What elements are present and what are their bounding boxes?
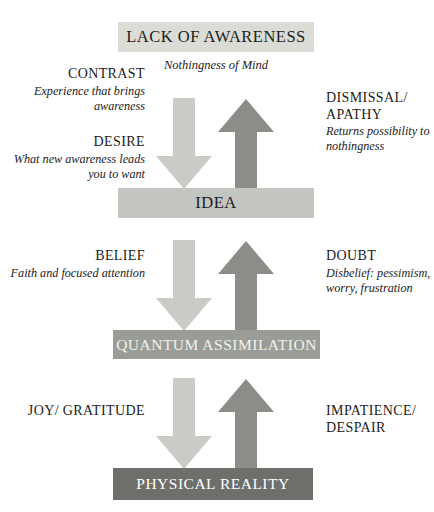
right-label-dismissal-apathy: DISMISSAL/ APATHY Returns possibility to… — [326, 90, 434, 155]
right-label-doubt-desc: Disbelief: pessimism, worry, frustration — [326, 266, 434, 297]
stage-label-idea: IDEA — [118, 193, 314, 213]
arrow-up-icon — [217, 98, 275, 190]
left-label-contrast-desc: Experience that brings awareness — [5, 84, 145, 115]
right-label-impatience-despair-title: IMPATIENCE/ DESPAIR — [326, 403, 434, 436]
left-label-belief-desc: Faith and focused attention — [5, 266, 145, 281]
arrow-down-icon — [155, 378, 213, 470]
stage-box-lack-of-awareness: LACK OF AWARENESS — [118, 22, 314, 52]
manifestation-flow-diagram: LACK OF AWARENESS Nothingness of Mind CO… — [0, 0, 434, 512]
left-label-desire-desc: What new awareness leads you to want — [5, 152, 145, 183]
arrow-pair-idea-to-quantum — [155, 240, 285, 332]
arrow-pair-quantum-to-physical — [155, 378, 285, 470]
right-label-impatience-despair: IMPATIENCE/ DESPAIR — [326, 403, 434, 436]
stage-label-quantum-assimilation: QUANTUM ASSIMILATION — [113, 336, 320, 354]
stage-box-quantum-assimilation: QUANTUM ASSIMILATION — [113, 330, 320, 359]
right-label-doubt: DOUBT Disbelief: pessimism, worry, frust… — [326, 248, 434, 296]
arrow-down-icon — [155, 98, 213, 190]
left-label-desire-title: DESIRE — [5, 134, 145, 151]
stage-label-physical-reality: PHYSICAL REALITY — [113, 475, 313, 493]
arrow-up-icon — [217, 378, 275, 470]
stage-box-physical-reality: PHYSICAL REALITY — [113, 468, 313, 500]
stage-box-idea: IDEA — [118, 188, 314, 218]
awareness-subtitle: Nothingness of Mind — [118, 58, 314, 73]
right-label-dismissal-apathy-title: DISMISSAL/ APATHY — [326, 90, 434, 123]
arrow-down-icon — [155, 240, 213, 332]
left-label-contrast-title: CONTRAST — [5, 66, 145, 83]
arrow-pair-awareness-to-idea — [155, 98, 285, 190]
left-label-belief: BELIEF Faith and focused attention — [5, 248, 145, 281]
left-label-desire: DESIRE What new awareness leads you to w… — [5, 134, 145, 182]
arrow-up-icon — [217, 240, 275, 332]
left-label-belief-title: BELIEF — [5, 248, 145, 265]
right-label-doubt-title: DOUBT — [326, 248, 434, 265]
left-label-joy-gratitude: JOY/ GRATITUDE — [5, 403, 145, 420]
right-label-dismissal-apathy-desc: Returns possibility to nothingness — [326, 124, 434, 155]
stage-label-lack-of-awareness: LACK OF AWARENESS — [118, 27, 314, 47]
left-label-joy-gratitude-title: JOY/ GRATITUDE — [5, 403, 145, 420]
left-label-contrast: CONTRAST Experience that brings awarenes… — [5, 66, 145, 114]
